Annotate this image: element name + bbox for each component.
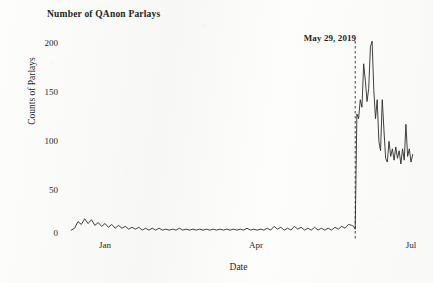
series-line-counts-of-parlays [71,41,413,230]
qanon-parlays-line-chart: Number of QAnon Parlays Counts of Parlay… [0,0,433,283]
plot-area [0,0,433,283]
